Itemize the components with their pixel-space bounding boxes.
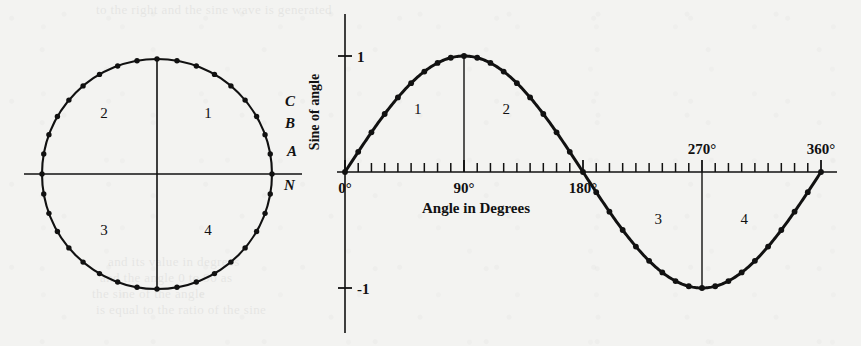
sine-point [382,111,388,117]
circle-point [115,279,120,284]
circle-point [97,271,102,276]
circle-point [80,83,85,88]
sine-point [646,258,652,264]
sine-point [699,285,705,291]
circle-quadrant-label: 3 [100,222,108,238]
sine-point [620,227,626,233]
x-tick-label-0: 0° [338,180,352,196]
x-tick-label-360: 360° [807,141,836,157]
circle-point [174,285,179,290]
circle-point-label-b: B [284,115,295,131]
circle-point [154,56,159,61]
sine-point [712,283,718,289]
circle-point [254,114,259,119]
sine-point [778,227,784,233]
sine-point [501,69,507,75]
circle-quadrant-label: 4 [204,222,212,238]
sine-point [421,69,427,75]
y-axis-title: Sine of angle [307,74,322,150]
sine-point [448,55,454,61]
circle-quadrant-label: 1 [204,105,212,121]
circle-point [262,211,267,216]
sine-point [633,244,639,250]
circle-point [269,171,274,176]
circle-point [268,191,273,196]
sine-point [686,283,692,289]
sine-point [792,209,798,215]
circle-point [66,97,71,102]
circle-point [134,58,139,63]
y-tick-label-neg1: -1 [357,281,370,297]
circle-point [41,151,46,156]
sine-point [818,169,824,175]
circle-point [212,271,217,276]
circle-point [254,229,259,234]
circle-point [154,286,159,291]
chart-quadrant-label: 1 [414,101,422,117]
circle-point [134,285,139,290]
circle-point [55,229,60,234]
x-tick-label-270: 270° [688,141,717,157]
sine-point [765,244,771,250]
sine-point [673,278,679,284]
x-axis-tick-labels: 0°90°180°270°360° [338,141,835,196]
unit-circle-diagram: 1234 ABCN [24,56,302,291]
sine-point [408,80,414,86]
sine-point [355,149,361,155]
x-tick-label-180: 180° [569,180,598,196]
sine-point [607,209,613,215]
y-tick-label-pos1: 1 [357,49,365,65]
sine-point [461,53,467,59]
circle-point [242,245,247,250]
sine-point [342,169,348,175]
circle-point [242,97,247,102]
sine-point [369,129,375,135]
sine-point [395,95,401,101]
circle-point [115,63,120,68]
sine-point [752,258,758,264]
x-tick-label-90: 90° [454,180,475,196]
y-axis-tick-labels: 1-1 [357,49,370,297]
circle-point [80,259,85,264]
chart-quadrant-label: 4 [741,211,749,227]
trigonometry-figure: 1234 ABCN 0°90°180°270°360° 1-1 1234 Ang… [0,0,861,346]
sine-point [739,270,745,276]
circle-point [194,63,199,68]
circle-point-label-c: C [285,93,296,109]
sine-point [567,149,573,155]
x-axis-title: Angle in Degrees [422,200,530,216]
circle-point [174,58,179,63]
circle-point-label-n: N [283,177,296,193]
chart-quadrant-label: 3 [655,211,663,227]
circle-point [46,132,51,137]
circle-point [39,171,44,176]
circle-point [194,279,199,284]
sine-point [659,270,665,276]
sine-point [726,278,732,284]
circle-point [228,259,233,264]
circle-point [66,245,71,250]
chart-quadrant-label: 2 [503,101,511,117]
circle-point [41,191,46,196]
sine-point [805,189,811,195]
circle-quadrant-label: 2 [100,105,108,121]
sine-point [540,111,546,117]
circle-point [212,72,217,77]
sine-point [554,129,560,135]
circle-point [97,72,102,77]
circle-point-labels: ABCN [283,93,297,193]
sine-point [514,80,520,86]
circle-point [55,114,60,119]
sine-point [527,95,533,101]
sine-point [488,60,494,66]
sine-point [435,60,441,66]
circle-point [262,132,267,137]
circle-point [46,211,51,216]
sine-wave-chart: 0°90°180°270°360° 1-1 1234 Angle in Degr… [307,14,837,333]
circle-point-label-a: A [286,143,297,159]
sine-point [474,55,480,61]
sine-point [580,169,586,175]
circle-point [228,83,233,88]
circle-point [268,151,273,156]
